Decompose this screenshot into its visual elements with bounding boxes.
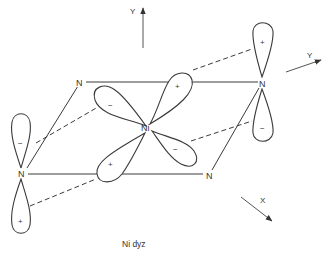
ni-lobe-lower-left-sign: +: [108, 160, 113, 169]
ni-lobe-upper-right: [150, 73, 192, 124]
ni-lobe-lower-right-sign: −: [173, 145, 178, 154]
x-axis-label: X: [260, 196, 266, 205]
overlap-left-lower: [30, 179, 96, 206]
n-right-lobe-lower: [253, 89, 273, 141]
n-right-lobe-lower-sign: −: [260, 124, 265, 133]
n-top-left-label: N: [76, 78, 83, 88]
n-bottom-right-label: N: [206, 171, 213, 181]
ni-lobe-lower-left: [97, 133, 145, 182]
y-axis-label: Y: [130, 7, 136, 16]
ni-dyz-orbital-diagram: Y Y X Ni − + + − − +: [0, 0, 330, 254]
y-axis-perspective-label: Y: [307, 51, 313, 60]
ni-lobe-upper-left-sign: −: [108, 101, 113, 110]
n-left-label: N: [18, 169, 25, 179]
ni-lobe-upper-left: [94, 86, 146, 126]
x-axis: X: [241, 196, 272, 221]
x-axis-arrow-icon: [241, 197, 272, 221]
n-top-right-label: N: [259, 79, 266, 89]
n-right-lobe-upper: [253, 23, 273, 77]
figure-caption: Ni dyz: [122, 239, 146, 249]
overlap-right-lower: [191, 121, 252, 141]
y-axis-perspective: Y: [286, 51, 321, 72]
ni-atom-label: Ni: [141, 123, 150, 133]
overlap-right-upper: [193, 49, 252, 70]
y-axis-perspective-arrow-icon: [286, 60, 321, 72]
n-left-lobe-upper-sign: −: [18, 139, 23, 148]
n-left-lobe-lower-sign: +: [18, 217, 23, 226]
n-right-lobe-upper-sign: +: [260, 38, 265, 47]
overlap-left-upper: [36, 107, 98, 143]
ni-dyz-orbital: Ni − + + −: [94, 73, 196, 182]
y-axis-vertical: Y: [130, 7, 143, 48]
ni-lobe-upper-right-sign: +: [175, 82, 180, 91]
edge-left: [27, 86, 78, 168]
edge-right: [212, 88, 259, 170]
